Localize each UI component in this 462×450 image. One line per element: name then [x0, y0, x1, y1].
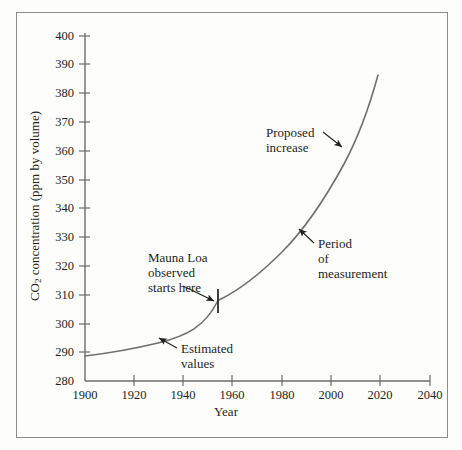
- x-tick-label: 1960: [210, 388, 254, 403]
- y-tick-label: 340: [40, 201, 74, 216]
- annotation-line: starts here: [148, 280, 208, 295]
- x-tick-label: 1980: [260, 388, 304, 403]
- annotation-line: observed: [148, 265, 208, 280]
- x-tick-label: 1920: [112, 388, 156, 403]
- annotation-period-of-measurement: Period of measurement: [318, 236, 387, 281]
- y-tick-label: 290: [40, 345, 74, 360]
- annotation-line: Mauna Loa: [148, 250, 208, 265]
- annotation-line: Period: [318, 236, 387, 251]
- y-tick-label: 390: [40, 57, 74, 72]
- proposed-leader: [323, 132, 342, 147]
- y-tick-label: 400: [40, 29, 74, 44]
- annotation-mauna-loa: Mauna Loa observed starts here: [148, 250, 208, 295]
- co2-curve: [85, 75, 378, 356]
- y-tick-label: 280: [40, 374, 74, 389]
- annotation-line: Proposed: [266, 125, 314, 140]
- y-tick-label: 360: [40, 144, 74, 159]
- y-tick-label: 310: [40, 288, 74, 303]
- y-axis-title-suffix: concentration (ppm by volume): [27, 111, 42, 279]
- annotation-line: Estimated: [181, 341, 233, 356]
- x-axis-title: Year: [214, 404, 238, 420]
- x-tick-label: 2020: [358, 388, 402, 403]
- y-tick-label: 300: [40, 317, 74, 332]
- x-tick-label: 1900: [63, 388, 107, 403]
- annotation-line: of: [318, 251, 387, 266]
- y-axis-title-prefix: CO: [27, 283, 42, 301]
- y-tick-label: 380: [40, 86, 74, 101]
- x-tick-label: 2000: [309, 388, 353, 403]
- annotation-proposed-increase: Proposed increase: [266, 125, 314, 155]
- y-tick-label: 370: [40, 115, 74, 130]
- y-axis-title: CO2 concentration (ppm by volume): [27, 91, 43, 321]
- x-tick-label: 1940: [161, 388, 205, 403]
- annotation-line: values: [181, 356, 233, 371]
- period-leader: [299, 229, 314, 243]
- annotation-estimated-values: Estimated values: [181, 341, 233, 371]
- y-tick-label: 320: [40, 259, 74, 274]
- y-axis-title-subscript: 2: [33, 278, 43, 283]
- annotation-line: increase: [266, 140, 314, 155]
- annotation-line: measurement: [318, 266, 387, 281]
- x-tick-label: 2040: [408, 388, 452, 403]
- chart-screenshot: 400 390 380 370 360 350 340 330 320 310 …: [0, 0, 462, 450]
- y-tick-label: 350: [40, 173, 74, 188]
- y-tick-label: 330: [40, 230, 74, 245]
